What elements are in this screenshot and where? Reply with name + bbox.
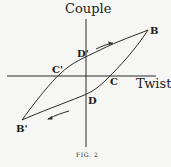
point-label-d: D (88, 95, 97, 106)
point-label-c-prime: C' (52, 64, 63, 75)
point-label-c: C (110, 76, 118, 87)
upper-loop-branch (22, 30, 148, 120)
point-label-b-prime: B' (16, 123, 28, 134)
point-label-b: B (150, 25, 158, 36)
y-axis-label: Couple (65, 1, 112, 16)
arrow-left-icon (47, 111, 69, 120)
point-label-d-prime: D' (77, 48, 89, 59)
figure-caption: FIG. 2 (76, 151, 98, 158)
lower-loop-branch (22, 30, 148, 120)
x-axis-label: Twist (136, 76, 171, 91)
hysteresis-diagram: Couple Twist B B' C' C D' D FIG. 2 (0, 0, 171, 167)
